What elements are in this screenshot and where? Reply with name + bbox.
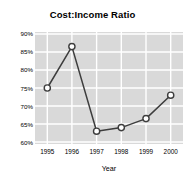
y-tick-label-70: 70% <box>11 104 33 110</box>
data-point-markers <box>44 44 174 135</box>
y-tick-label-75: 75% <box>11 86 33 92</box>
data-point-1996 <box>69 44 75 50</box>
data-point-1999 <box>143 116 149 122</box>
x-tick-label-1999: 1999 <box>133 148 159 155</box>
data-point-1995 <box>44 85 50 91</box>
x-tick-label-1998: 1998 <box>108 148 134 155</box>
y-tick-label-90: 90% <box>11 31 33 37</box>
gridlines-horizontal <box>35 34 183 142</box>
y-tick-label-85: 85% <box>11 49 33 55</box>
x-axis-tick-labels: 1995 1996 1997 1998 1999 2000 <box>35 148 183 160</box>
x-tick-label-2000: 2000 <box>158 148 184 155</box>
x-tick-label-1996: 1996 <box>59 148 85 155</box>
data-point-1997 <box>94 128 100 134</box>
data-series-line <box>47 47 170 132</box>
plot-svg <box>35 32 183 144</box>
y-tick-label-80: 80% <box>11 67 33 73</box>
data-point-2000 <box>168 92 174 98</box>
y-tick-label-60: 60% <box>11 140 33 146</box>
cost-income-ratio-chart: Cost:Income Ratio 90% 85% 80% 75% 70% 65… <box>0 0 190 188</box>
y-axis-tick-labels: 90% 85% 80% 75% 70% 65% 60% <box>10 0 33 188</box>
x-tick-label-1997: 1997 <box>84 148 110 155</box>
x-tick-label-1995: 1995 <box>34 148 60 155</box>
x-axis-title: Year <box>35 164 183 173</box>
data-point-1998 <box>118 125 124 131</box>
y-tick-label-65: 65% <box>11 122 33 128</box>
plot-area <box>35 32 183 144</box>
